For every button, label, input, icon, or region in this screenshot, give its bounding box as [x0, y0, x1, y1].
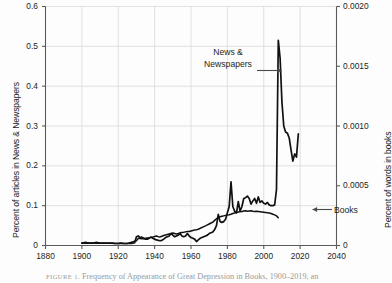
x-axis-tick-5: 1980 — [207, 251, 247, 261]
x-axis-tick-2: 1920 — [98, 251, 138, 261]
x-axis-tick-1: 1900 — [62, 251, 102, 261]
figure-caption-label: FIGURE 1. — [46, 273, 80, 280]
chart-plot — [0, 0, 392, 283]
x-axis-tick-4: 1960 — [171, 251, 211, 261]
y-axis-right-tick-0: 0 — [343, 240, 379, 250]
figure-caption: FIGURE 1. Frequency of Appearance of Gre… — [46, 272, 376, 283]
y-axis-left-tick-4: 0.4 — [14, 81, 38, 91]
figure-caption-text: Frequency of Appearance of Great Depress… — [82, 272, 318, 281]
y-axis-right-tick-2: 0.0010 — [343, 121, 379, 131]
gridlines — [46, 7, 337, 246]
y-axis-right-tick-3: 0.0015 — [343, 61, 379, 71]
x-axis-tick-7: 2020 — [280, 251, 320, 261]
x-axis-tick-8: 2040 — [317, 251, 357, 261]
y-axis-left-tick-1: 0.1 — [14, 200, 38, 210]
y-axis-left-tick-2: 0.2 — [14, 160, 38, 170]
annotation-news-line1: News & — [196, 47, 260, 59]
annotation-news-line2: Newspapers — [196, 59, 260, 71]
y-axis-left-tick-5: 0.5 — [14, 41, 38, 51]
x-axis-tick-0: 1880 — [26, 251, 66, 261]
y-axis-right-tick-1: 0.0005 — [343, 180, 379, 190]
x-axis-tick-3: 1940 — [135, 251, 175, 261]
annotation-books: Books — [334, 205, 358, 217]
annotation-arrows — [257, 68, 332, 212]
y-axis-right-tick-4: 0.0020 — [343, 1, 379, 11]
y-axis-left-tick-0: 0 — [14, 240, 38, 250]
x-axis-tick-6: 2000 — [244, 251, 284, 261]
annotation-news-newspapers: News & Newspapers — [196, 47, 260, 70]
figure-container: Percent of articles in News & Newspapers… — [0, 0, 392, 283]
y-axis-left-tick-3: 0.3 — [14, 121, 38, 131]
y-axis-left-tick-6: 0.6 — [14, 1, 38, 11]
